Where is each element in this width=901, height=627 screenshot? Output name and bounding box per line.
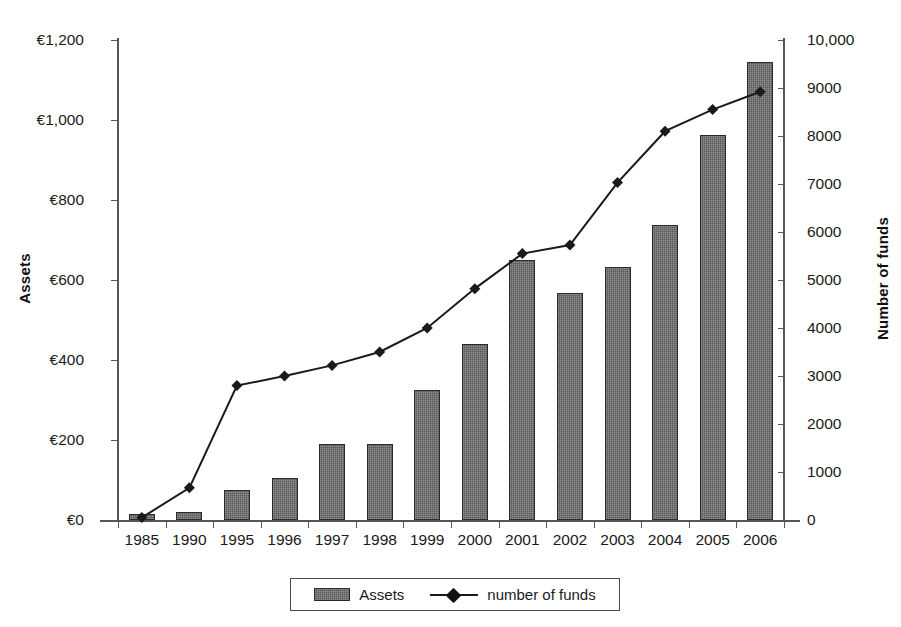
y-axis-right-tick-label: 10,000 bbox=[807, 31, 854, 49]
x-axis-tick-label: 1996 bbox=[267, 531, 301, 549]
y-axis-right-tick-label: 6000 bbox=[807, 223, 841, 241]
x-axis-tick-label: 2003 bbox=[600, 531, 634, 549]
x-axis-tick-label: 2001 bbox=[505, 531, 539, 549]
chart-legend: Assets number of funds bbox=[290, 578, 620, 611]
line-marker-1998 bbox=[374, 347, 385, 358]
y-axis-left-labels: €0€200€400€600€800€1,000€1,200 bbox=[0, 0, 108, 627]
y-axis-left-tick bbox=[111, 520, 118, 521]
x-axis-tick bbox=[594, 520, 595, 528]
y-axis-left-tick-label: €1,000 bbox=[37, 111, 84, 129]
y-axis-left-tick-label: €1,200 bbox=[37, 31, 84, 49]
x-axis-line bbox=[100, 520, 800, 522]
legend-label-assets: Assets bbox=[359, 586, 404, 603]
line-diamond-icon bbox=[430, 589, 478, 601]
line-marker-2005 bbox=[707, 104, 718, 115]
y-axis-right-tick-label: 2000 bbox=[807, 415, 841, 433]
y-axis-right-tick-label: 8000 bbox=[807, 127, 841, 145]
x-axis-tick bbox=[546, 520, 547, 528]
y-axis-right-tick-label: 1000 bbox=[807, 463, 841, 481]
x-axis-tick bbox=[689, 520, 690, 528]
y-axis-right-tick-label: 3000 bbox=[807, 367, 841, 385]
x-axis-tick-label: 1995 bbox=[220, 531, 254, 549]
y-axis-right-tick bbox=[778, 232, 785, 233]
line-marker-1997 bbox=[327, 360, 338, 371]
plot-area bbox=[118, 40, 784, 520]
x-axis-tick-label: 2000 bbox=[458, 531, 492, 549]
x-axis-tick bbox=[261, 520, 262, 528]
y-axis-left-tick bbox=[111, 120, 118, 121]
y-axis-left-tick-label: €400 bbox=[50, 351, 84, 369]
bar-swatch-icon bbox=[314, 588, 350, 601]
y-axis-right-tick bbox=[778, 136, 785, 137]
y-axis-right-tick-label: 5000 bbox=[807, 271, 841, 289]
x-axis-tick-label: 2004 bbox=[648, 531, 682, 549]
x-axis-tick-label: 2006 bbox=[743, 531, 777, 549]
legend-label-number-of-funds: number of funds bbox=[487, 586, 595, 603]
y-axis-right-tick-label: 7000 bbox=[807, 175, 841, 193]
y-axis-right-tick-label: 4000 bbox=[807, 319, 841, 337]
x-axis-tick-label: 2002 bbox=[553, 531, 587, 549]
x-axis-tick-label: 1999 bbox=[410, 531, 444, 549]
x-axis-tick bbox=[213, 520, 214, 528]
y-axis-right-tick bbox=[778, 328, 785, 329]
y-axis-right-tick bbox=[778, 520, 785, 521]
line-marker-1995 bbox=[231, 380, 242, 391]
x-axis-tick-label: 1990 bbox=[172, 531, 206, 549]
x-axis-tick bbox=[641, 520, 642, 528]
x-axis-tick-label: 2005 bbox=[695, 531, 729, 549]
x-axis-tick-label: 1997 bbox=[315, 531, 349, 549]
y-axis-left-tick-label: €0 bbox=[67, 511, 84, 529]
x-axis-tick bbox=[784, 520, 785, 528]
line-marker-1990 bbox=[184, 482, 195, 493]
legend-item-number-of-funds: number of funds bbox=[430, 586, 595, 603]
y-axis-left-tick-label: €200 bbox=[50, 431, 84, 449]
y-axis-left-tick bbox=[111, 360, 118, 361]
x-axis-tick bbox=[356, 520, 357, 528]
line-marker-1996 bbox=[279, 371, 290, 382]
y-axis-left-tick bbox=[111, 440, 118, 441]
y-axis-right-tick bbox=[778, 376, 785, 377]
x-axis-tick bbox=[308, 520, 309, 528]
y-axis-right-tick bbox=[778, 184, 785, 185]
x-axis-tick bbox=[451, 520, 452, 528]
y-axis-right-tick-label: 9000 bbox=[807, 79, 841, 97]
y-axis-left-tick bbox=[111, 40, 118, 41]
legend-item-assets: Assets bbox=[314, 586, 404, 603]
y-axis-left-tick bbox=[111, 280, 118, 281]
x-axis-tick bbox=[499, 520, 500, 528]
y-axis-right-labels: 010002000300040005000600070008000900010,… bbox=[785, 0, 895, 627]
y-axis-left-tick bbox=[111, 200, 118, 201]
x-axis-tick bbox=[118, 520, 119, 528]
x-axis-tick-label: 1998 bbox=[362, 531, 396, 549]
line-marker-2006 bbox=[755, 86, 766, 97]
y-axis-right-tick bbox=[778, 424, 785, 425]
y-axis-right-tick bbox=[778, 88, 785, 89]
chart-container: Assets Number of funds €0€200€400€600€80… bbox=[0, 0, 901, 627]
y-axis-left-tick-label: €800 bbox=[50, 191, 84, 209]
x-axis-tick bbox=[403, 520, 404, 528]
y-axis-right-tick-label: 0 bbox=[807, 511, 816, 529]
x-axis-tick-label: 1985 bbox=[125, 531, 159, 549]
line-series-layer bbox=[118, 40, 784, 520]
y-axis-right-tick bbox=[778, 472, 785, 473]
y-axis-right-tick bbox=[778, 280, 785, 281]
x-axis-tick bbox=[736, 520, 737, 528]
y-axis-right-tick bbox=[778, 40, 785, 41]
line-number-of-funds bbox=[142, 92, 760, 518]
y-axis-left-tick-label: €600 bbox=[50, 271, 84, 289]
x-axis-tick bbox=[166, 520, 167, 528]
